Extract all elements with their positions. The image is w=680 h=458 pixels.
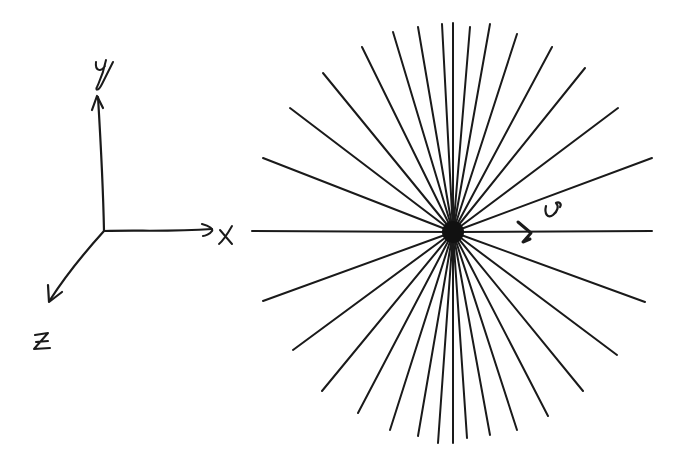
y-label-glyph (96, 60, 113, 90)
moving-charge (442, 221, 464, 243)
field-line (453, 47, 552, 232)
coordinate-axes (34, 60, 232, 349)
field-line (293, 232, 453, 350)
field-line (418, 232, 453, 436)
field-line (252, 231, 453, 232)
field-line (390, 232, 453, 430)
x-axis (104, 229, 212, 231)
field-line (323, 73, 453, 232)
field-line (453, 27, 470, 232)
field-line (453, 232, 517, 430)
z-axis (50, 231, 104, 300)
field-line (453, 232, 548, 416)
field-line (290, 108, 453, 232)
velocity-arrow (518, 202, 561, 242)
velocity-label-glyph (545, 202, 560, 216)
field-line (453, 24, 490, 232)
field-line (263, 158, 453, 232)
field-line (453, 232, 490, 435)
x-label-glyph (219, 226, 232, 244)
field-line (362, 47, 453, 232)
field-line (453, 231, 652, 232)
field-line (358, 232, 453, 413)
y-axis (98, 97, 104, 231)
field-line (453, 232, 467, 438)
field-line (438, 232, 453, 443)
z-label-glyph (34, 333, 50, 349)
field-line (453, 34, 517, 232)
diagram-canvas (0, 0, 680, 458)
field-line (453, 232, 617, 355)
field-line (453, 108, 618, 232)
